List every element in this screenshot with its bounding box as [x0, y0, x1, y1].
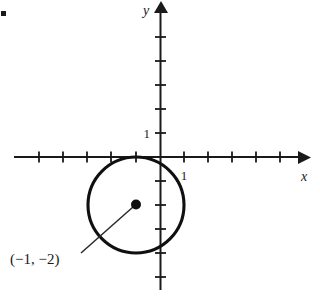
y-axis-arrow-icon — [154, 1, 168, 13]
y-axis-label: y — [141, 3, 150, 18]
graph-figure: y x 1 1 (−1, −2) — [0, 0, 320, 297]
coordinate-plane-svg: y x 1 1 (−1, −2) — [0, 0, 320, 297]
square-bullet-icon — [1, 11, 6, 16]
x-axis-label: x — [300, 169, 308, 184]
center-point-dot — [131, 200, 141, 210]
x-axis-tick-label-1: 1 — [181, 168, 188, 183]
y-axis-tick-label-1: 1 — [144, 126, 151, 141]
center-point-label: (−1, −2) — [10, 251, 59, 268]
x-axis-arrow-icon — [298, 151, 311, 164]
